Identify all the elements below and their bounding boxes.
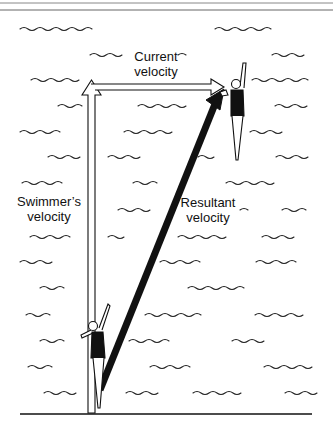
resultant-velocity-label-line1: Resultant	[176, 195, 240, 210]
resultant-velocity-label: Resultant velocity	[176, 195, 240, 225]
swimmer-end-figure	[220, 63, 246, 160]
current-velocity-arrow	[91, 79, 224, 95]
current-velocity-label: Current velocity	[128, 49, 184, 79]
swimmer-velocity-label-line1: Swimmer’s	[10, 194, 88, 209]
current-velocity-label-line2: velocity	[128, 64, 184, 79]
top-border	[0, 3, 333, 10]
current-velocity-label-line1: Current	[128, 49, 184, 64]
swimmer-velocity-label: Swimmer’s velocity	[10, 194, 88, 224]
swimmer-velocity-label-line2: velocity	[10, 209, 88, 224]
resultant-velocity-arrow	[100, 89, 224, 390]
resultant-velocity-label-line2: velocity	[176, 210, 240, 225]
